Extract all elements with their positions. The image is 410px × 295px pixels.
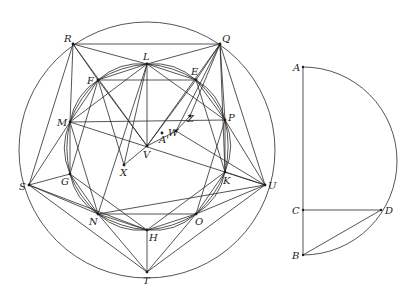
segment-MN [70,122,98,214]
label-N: N [88,216,99,227]
point-G [69,173,72,176]
segment-UT [147,185,265,272]
label-A: A [292,62,300,73]
label-F: F [86,75,95,86]
label-K: K [222,175,231,186]
point-L [146,63,149,66]
point-labels: RQLFEMPGKSUNOHTVXWZA' [19,33,277,286]
semicircle-point-markers [302,66,382,256]
point-T [146,271,149,274]
point-C [302,209,304,211]
segment-EP [196,80,225,120]
segment-UN [98,185,265,214]
segment-PO [196,120,225,214]
label-U: U [268,180,277,191]
semicircle-construction: ACBD [291,62,397,261]
label-L: L [142,51,150,62]
label-E: E [190,66,199,77]
segment-MP [70,120,225,122]
label-D: D [384,205,393,216]
point-Q [219,43,222,46]
label-S: S [19,181,26,192]
semicircle-labels: ACBD [291,62,393,261]
segment-XF [98,80,124,165]
point-R [72,43,75,46]
label-P: P [227,112,235,123]
point-H [146,229,149,232]
label-V: V [143,149,152,160]
point-K [224,171,227,174]
label-X: X [119,167,128,178]
label-H: H [148,232,158,243]
point-D [380,209,382,211]
circle-construction: RQLFEMPGKSUNOHTVXWZA' [19,22,277,286]
label-M: M [56,117,68,128]
label-R: R [63,33,72,44]
point-U [264,184,267,187]
segment-RM [70,44,73,122]
point-X [123,164,126,167]
segment-ST [29,185,147,272]
point-V [146,145,149,148]
point-E [195,79,198,82]
point-N [97,213,100,216]
point-F [97,79,100,82]
label-A': A' [158,134,169,145]
label-Q: Q [222,33,230,44]
label-C: C [292,205,300,216]
semicircle-arc [303,67,397,255]
label-G: G [61,176,69,187]
segment-FM [70,80,98,122]
segment-OT [147,214,196,272]
point-A [302,66,304,68]
point-S [28,184,31,187]
point-O [195,213,198,216]
label-T: T [143,275,151,286]
segment-BD [303,210,381,255]
segment-SH [29,185,147,230]
geometry-diagram: RQLFEMPGKSUNOHTVXWZA' ACBD [0,0,410,295]
segment-RL [73,44,147,64]
point-P [224,119,227,122]
segment-KU [225,172,265,185]
segment-NT [98,214,147,272]
label-O: O [195,216,203,227]
segment-FV [98,80,147,146]
label-W: W [168,127,179,138]
segment-WU [176,131,265,185]
segment-FG [70,80,98,174]
semicircle-lines [303,67,381,255]
label-Z: Z [186,113,195,124]
label-B: B [291,250,299,261]
segment-PU [225,120,265,185]
point-B [302,254,304,256]
point-M [69,121,72,124]
